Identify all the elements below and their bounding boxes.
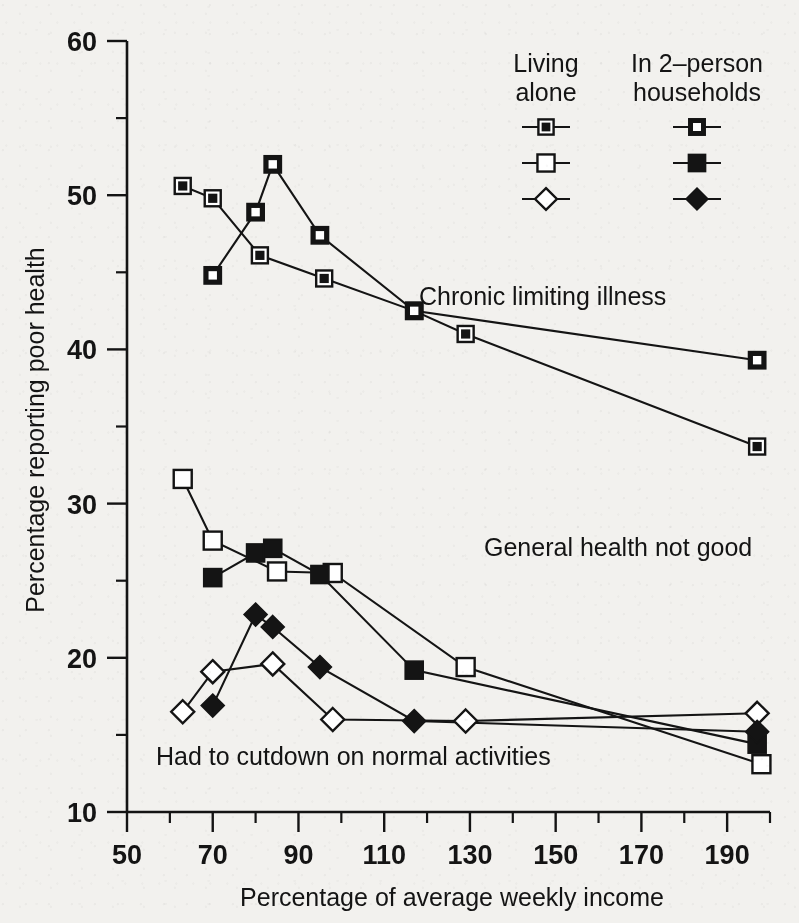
data-point-marker [264,156,281,173]
series-layer [171,156,770,773]
legend: Living alone In 2–person households [513,49,763,210]
data-point-marker [403,710,426,733]
y-tick-label: 10 [67,798,97,828]
x-axis-ticks [127,812,770,832]
x-tick-label: 190 [705,840,750,870]
data-point-marker [201,660,224,683]
legend-entry-square-open [522,154,570,171]
data-point-marker [316,270,332,286]
series-line [183,186,757,447]
annotation-general-health-not-good: General health not good [484,533,752,561]
chart-figure: 102030405060 507090110130150170190 Perce… [0,0,799,923]
data-point-marker [247,544,265,562]
legend-entry-square-filled [673,154,721,171]
data-point-marker [268,562,286,580]
data-point-marker [454,710,477,733]
data-point-marker [538,119,553,134]
annotation-had-to-cutdown: Had to cutdown on normal activities [156,742,551,770]
x-tick-label: 50 [112,840,142,870]
y-tick-label: 50 [67,181,97,211]
x-tick-label: 130 [447,840,492,870]
legend-col2-title-line2: households [633,78,761,106]
y-tick-label: 20 [67,644,97,674]
data-point-marker [205,190,221,206]
x-tick-label: 90 [283,840,313,870]
y-axis-ticks [107,41,127,812]
data-point-marker [405,661,423,679]
x-axis-title: Percentage of average weekly income [240,883,664,911]
data-point-marker [264,539,282,557]
data-point-marker [458,326,474,342]
x-tick-label: 70 [198,840,228,870]
data-point-marker [171,700,194,723]
data-point-marker [204,532,222,550]
x-axis-tick-labels: 507090110130150170190 [112,840,750,870]
x-tick-label: 170 [619,840,664,870]
y-tick-label: 60 [67,27,97,57]
data-point-marker [686,188,708,210]
data-point-marker [457,658,475,676]
series-line [213,164,757,360]
data-point-marker [311,566,329,584]
x-tick-label: 150 [533,840,578,870]
x-tick-label: 110 [362,840,406,870]
data-point-marker [247,204,264,221]
data-point-marker [175,178,191,194]
data-point-marker [244,603,267,626]
series-1 [213,164,757,360]
annotation-chronic-limiting-illness: Chronic limiting illness [419,282,666,310]
legend-rows [522,119,721,210]
data-point-marker [749,439,765,455]
series-0 [183,186,757,447]
legend-entry-square-open-on-black [673,119,721,135]
y-tick-label: 40 [67,335,97,365]
legend-entry-diamond-open [522,188,570,210]
legend-col2-title-line1: In 2–person [631,49,763,77]
data-point-marker [201,694,224,717]
data-point-marker [174,470,192,488]
legend-entry-square-dot [522,119,570,134]
data-point-marker [311,227,328,244]
data-point-marker [689,119,705,135]
y-tick-label: 30 [67,490,97,520]
data-point-marker [688,154,705,171]
data-point-marker [204,569,222,587]
y-axis-tick-labels: 102030405060 [67,27,97,828]
data-point-marker [535,188,557,210]
data-point-marker [752,755,770,773]
data-point-marker [252,247,268,263]
y-axis-title: Percentage reporting poor health [21,247,49,613]
data-point-marker [749,352,766,369]
data-point-marker [204,267,221,284]
legend-col1-title-line2: alone [515,78,576,106]
legend-col1-title-line1: Living [513,49,578,77]
legend-entry-diamond-filled [673,188,721,210]
data-point-marker [537,154,554,171]
line-chart: 102030405060 507090110130150170190 Perce… [0,0,799,923]
